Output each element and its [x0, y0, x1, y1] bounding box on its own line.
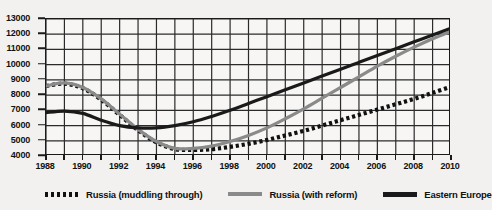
x-tick-label: 2008: [404, 161, 423, 171]
x-tick-mark: [284, 155, 286, 160]
x-tick-label: 1988: [35, 161, 54, 171]
y-tick-label: 12000: [6, 28, 30, 38]
x-tick-mark: [321, 155, 323, 160]
x-tick-mark: [358, 155, 360, 160]
y-tick-label: 9000: [11, 74, 30, 84]
x-tick-mark: [155, 155, 157, 160]
y-tick-label: 13000: [6, 13, 30, 23]
series-lines: [46, 19, 450, 155]
x-tick-mark: [63, 155, 65, 160]
x-tick-label: 1996: [183, 161, 202, 171]
x-tick-mark: [137, 155, 139, 160]
plot-area: [45, 18, 450, 155]
legend-item: Eastern Europe: [383, 189, 491, 200]
x-tick-label: 2002: [293, 161, 312, 171]
y-tick-mark: [38, 63, 45, 65]
y-tick-mark: [38, 78, 45, 80]
y-tick-mark: [38, 139, 45, 141]
x-tick-mark: [266, 155, 268, 160]
legend-label: Russia (with reform): [269, 189, 357, 200]
chart-legend: Russia (muddling through)Russia (with re…: [45, 185, 465, 203]
x-tick-mark: [211, 155, 213, 160]
x-tick-mark: [229, 155, 231, 160]
x-tick-label: 1994: [146, 161, 165, 171]
legend-item: Russia (muddling through): [45, 189, 202, 200]
x-tick-mark: [174, 155, 176, 160]
x-tick-mark: [45, 155, 47, 160]
y-tick-label: 6000: [11, 120, 30, 130]
y-tick-label: 10000: [6, 59, 30, 69]
series-line-0: [46, 84, 450, 150]
y-tick-label: 5000: [11, 135, 30, 145]
y-tick-label: 7000: [11, 104, 30, 114]
x-tick-mark: [413, 155, 415, 160]
legend-label: Eastern Europe: [424, 189, 491, 200]
x-tick-label: 2004: [330, 161, 349, 171]
series-line-2: [46, 28, 450, 128]
x-tick-mark: [340, 155, 342, 160]
x-tick-label: 2010: [440, 161, 459, 171]
legend-item: Russia (with reform): [228, 189, 357, 200]
x-tick-mark: [100, 155, 102, 160]
y-axis: 1300012000110001000090008000700060005000…: [0, 0, 41, 210]
y-tick-mark: [38, 93, 45, 95]
x-tick-mark: [395, 155, 397, 160]
x-tick-mark: [248, 155, 250, 160]
y-tick-mark: [38, 17, 45, 19]
y-tick-mark: [38, 32, 45, 34]
x-tick-label: 1990: [72, 161, 91, 171]
y-tick-label: 4000: [11, 150, 30, 160]
x-tick-mark: [450, 155, 452, 160]
y-tick-mark: [38, 154, 45, 156]
y-tick-mark: [38, 124, 45, 126]
x-tick-label: 2006: [367, 161, 386, 171]
y-tick-label: 11000: [6, 43, 30, 53]
y-tick-mark: [38, 109, 45, 111]
x-tick-mark: [303, 155, 305, 160]
series-line-1: [46, 31, 450, 149]
x-tick-label: 2000: [256, 161, 275, 171]
x-tick-mark: [82, 155, 84, 160]
x-tick-mark: [119, 155, 121, 160]
legend-swatch-dotted-icon: [45, 192, 79, 197]
x-axis: 1988199019921994199619982000200220042006…: [45, 155, 450, 179]
x-tick-label: 1998: [219, 161, 238, 171]
legend-swatch-gray-icon: [228, 192, 262, 196]
x-tick-mark: [192, 155, 194, 160]
x-tick-mark: [376, 155, 378, 160]
x-tick-mark: [432, 155, 434, 160]
x-tick-label: 1992: [109, 161, 128, 171]
y-tick-mark: [38, 48, 45, 50]
legend-label: Russia (muddling through): [86, 189, 202, 200]
legend-swatch-black-icon: [383, 192, 417, 197]
y-tick-label: 8000: [11, 89, 30, 99]
